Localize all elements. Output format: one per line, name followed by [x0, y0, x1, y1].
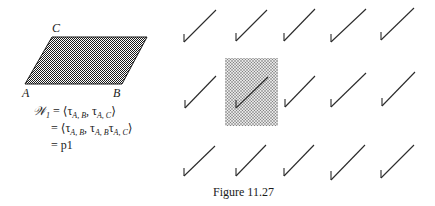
motif [284, 145, 314, 176]
motif [184, 10, 216, 42]
motif [381, 8, 414, 40]
motif [236, 145, 266, 176]
motif-grid [184, 8, 415, 180]
motif [331, 9, 366, 42]
motif [236, 10, 267, 41]
motif [284, 9, 315, 41]
vertex-label-b: B [113, 86, 120, 101]
motif [185, 76, 216, 108]
motif [184, 146, 215, 176]
highlighted-cell [225, 58, 278, 126]
vertex-label-c: C [52, 21, 60, 36]
vertex-label-a: A [22, 86, 29, 101]
motif [382, 72, 415, 106]
wallpaper-group-symbol: 𝒲 [33, 104, 46, 118]
figure-caption: Figure 11.27 [213, 185, 274, 200]
motif [331, 145, 365, 180]
motif [381, 145, 414, 178]
equation-line-3: = p1 [51, 137, 73, 153]
parallelogram-region [25, 37, 147, 84]
motif [331, 73, 366, 107]
motif [285, 76, 315, 107]
